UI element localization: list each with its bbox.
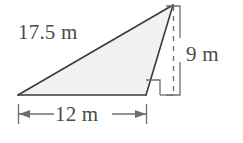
- slant-side-length-label: 17.5 m: [18, 22, 78, 43]
- geometry-figure: 17.5 m 9 m 12 m: [0, 0, 243, 143]
- base-length-label: 12 m: [55, 104, 98, 125]
- height-length-label: 9 m: [186, 44, 219, 65]
- base-dimension-arrowhead-left-icon: [19, 110, 30, 118]
- base-dimension-arrowhead-right-icon: [135, 110, 146, 118]
